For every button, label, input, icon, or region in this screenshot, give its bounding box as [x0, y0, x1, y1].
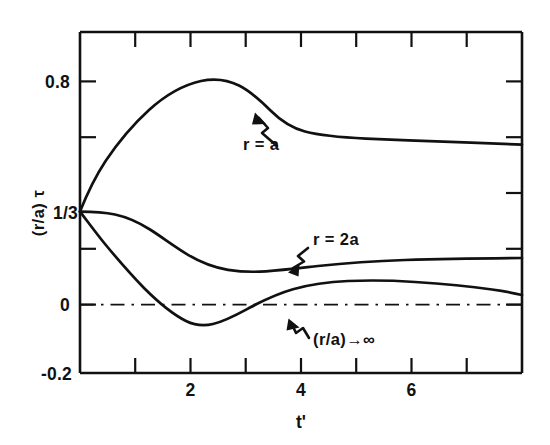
- figure-container: 0.8 1/3 0 -0.2 2 4 6 t' (r/a) τ r = a r …: [0, 0, 550, 445]
- x-tick-label-6: 6: [407, 380, 417, 400]
- y-tick-label-0: 0: [60, 295, 70, 315]
- y-axis-title: (r/a) τ: [29, 190, 47, 237]
- leader-r-equals-2a: [288, 248, 308, 277]
- curve-r-equals-a: [80, 80, 522, 212]
- y-tick-label-0.8: 0.8: [45, 72, 70, 92]
- x-tick-label-2: 2: [186, 380, 196, 400]
- y-tick-label-1-3: 1/3: [53, 203, 78, 223]
- annotation-r-over-a-infinity: (r/a)→∞: [313, 330, 375, 348]
- annotation-r-equals-2a: r = 2a: [313, 230, 359, 248]
- annotation-r-equals-a: r = a: [243, 135, 280, 153]
- leader-r-over-a-infinity: [287, 319, 310, 339]
- y-tick-label-neg-0.2: -0.2: [41, 364, 72, 384]
- y-tick-marks: [80, 81, 522, 304]
- line-chart: 0.8 1/3 0 -0.2 2 4 6 t' (r/a) τ r = a r …: [0, 0, 550, 445]
- x-tick-label-4: 4: [296, 380, 306, 400]
- x-axis-title: t': [296, 412, 306, 432]
